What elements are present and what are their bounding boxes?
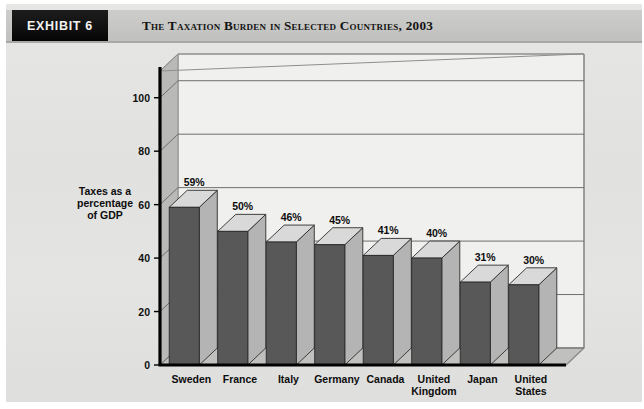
exhibit-badge-label: EXHIBIT 6 [27, 19, 93, 33]
exhibit-page: EXHIBIT 6 The Taxation Burden in Selecte… [0, 0, 644, 409]
bar-front-face [218, 231, 248, 365]
y-tick-label: 40 [138, 252, 150, 264]
y-tick-label: 0 [144, 359, 150, 371]
bar-front-face [363, 255, 393, 365]
svg-text:59%: 59% [184, 176, 206, 188]
bar-group [363, 238, 411, 365]
svg-text:Kingdom: Kingdom [411, 385, 457, 397]
bar-side-face [393, 238, 411, 365]
bar-group [509, 268, 557, 365]
bar-front-face [412, 258, 442, 365]
bar-front-face [509, 285, 539, 365]
svg-text:41%: 41% [378, 224, 400, 236]
svg-text:40%: 40% [426, 227, 448, 239]
svg-text:31%: 31% [475, 251, 497, 263]
svg-text:United: United [515, 373, 548, 385]
y-axis-title-line: of GDP [87, 209, 123, 221]
svg-text:50%: 50% [232, 200, 254, 212]
bar-side-face [199, 190, 217, 365]
chart-container: 020406080100 Taxes as apercentageof GDP … [6, 43, 642, 402]
chart-x-tick-labels: SwedenFranceItalyGermanyCanadaUnitedKing… [172, 373, 548, 397]
bar-group [460, 265, 508, 365]
y-tick-label: 60 [138, 199, 150, 211]
y-tick-label: 80 [138, 145, 150, 157]
y-tick-label: 100 [132, 92, 150, 104]
bar-front-face [169, 207, 199, 365]
bar-front-face [460, 282, 490, 365]
y-axis-title-line: Taxes as a [79, 185, 132, 197]
svg-text:Germany: Germany [314, 373, 360, 385]
svg-text:Italy: Italy [278, 373, 299, 385]
bar-group [218, 214, 266, 365]
exhibit-badge: EXHIBIT 6 [12, 10, 108, 41]
exhibit-title: The Taxation Burden in Selected Countrie… [142, 10, 433, 41]
svg-text:30%: 30% [523, 254, 545, 266]
svg-text:45%: 45% [329, 214, 351, 226]
bar-front-face [315, 245, 345, 365]
svg-text:Sweden: Sweden [172, 373, 212, 385]
bar-chart-svg: 020406080100 Taxes as apercentageof GDP … [6, 43, 642, 402]
bar-side-face [248, 214, 266, 365]
bar-group [169, 190, 217, 365]
bar-side-face [442, 241, 460, 365]
y-tick-label: 20 [138, 306, 150, 318]
svg-text:Canada: Canada [366, 373, 404, 385]
bar-side-face [296, 225, 314, 365]
bar-front-face [266, 242, 296, 365]
svg-text:States: States [515, 385, 547, 397]
bar-side-face [345, 228, 363, 365]
bar-group [266, 225, 314, 365]
svg-text:Japan: Japan [467, 373, 497, 385]
chart-y-axis-title: Taxes as apercentageof GDP [77, 185, 133, 221]
bar-group [315, 228, 363, 365]
y-axis-title-line: percentage [77, 197, 133, 209]
svg-text:France: France [223, 373, 258, 385]
svg-text:United: United [418, 373, 451, 385]
bar-group [412, 241, 460, 365]
chart-y-tick-labels: 020406080100 [132, 92, 150, 371]
svg-text:46%: 46% [281, 211, 303, 223]
